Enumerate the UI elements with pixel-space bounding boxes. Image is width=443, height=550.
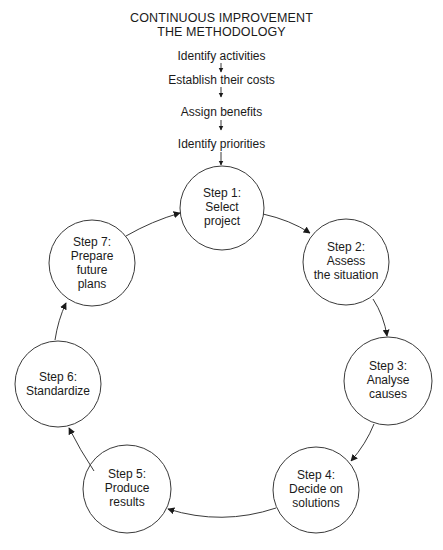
step-3-label: Step 3: Analyse causes <box>346 359 430 401</box>
step-5-label: Step 5: Produce results <box>85 467 169 509</box>
arrow-step7-to-step1 <box>126 213 180 236</box>
step-7-text-line-2: future <box>50 263 134 277</box>
arrow-step6-to-step7 <box>55 303 66 340</box>
step-7-text-line-3: plans <box>50 277 134 291</box>
step-5-text-line-1: Produce <box>85 481 169 495</box>
step-4-number: Step 4: <box>274 468 358 482</box>
step-3-text-line-1: Analyse <box>346 373 430 387</box>
step-7-number: Step 7: <box>50 235 134 249</box>
step-6-number: Step 6: <box>16 370 100 384</box>
step-2-text-line-2: the situation <box>304 268 388 282</box>
step-6-label: Step 6: Standardize <box>16 370 100 398</box>
step-2-number: Step 2: <box>304 240 388 254</box>
step-7-label: Step 7: Prepare future plans <box>50 235 134 291</box>
arrow-step4-to-step5 <box>168 508 276 517</box>
step-1-text-line-2: project <box>180 214 264 228</box>
step-4-text-line-1: Decide on <box>274 482 358 496</box>
step-6-text-line-1: Standardize <box>16 384 100 398</box>
step-5-text-line-2: results <box>85 495 169 509</box>
step-1-text-line-1: Select <box>180 200 264 214</box>
step-2-label: Step 2: Assess the situation <box>304 240 388 282</box>
step-3-number: Step 3: <box>346 359 430 373</box>
step-5-number: Step 5: <box>85 467 169 481</box>
arrow-step3-to-step4 <box>351 424 374 461</box>
step-3-text-line-2: causes <box>346 387 430 401</box>
arrow-step5-to-step6 <box>69 428 94 471</box>
arrow-step1-to-step2 <box>263 214 310 233</box>
step-7-text-line-1: Prepare <box>50 249 134 263</box>
step-1-label: Step 1: Select project <box>180 186 264 228</box>
step-2-text-line-1: Assess <box>304 254 388 268</box>
arrow-step2-to-step3 <box>373 299 387 336</box>
step-4-label: Step 4: Decide on solutions <box>274 468 358 510</box>
step-4-text-line-2: solutions <box>274 496 358 510</box>
step-1-number: Step 1: <box>180 186 264 200</box>
